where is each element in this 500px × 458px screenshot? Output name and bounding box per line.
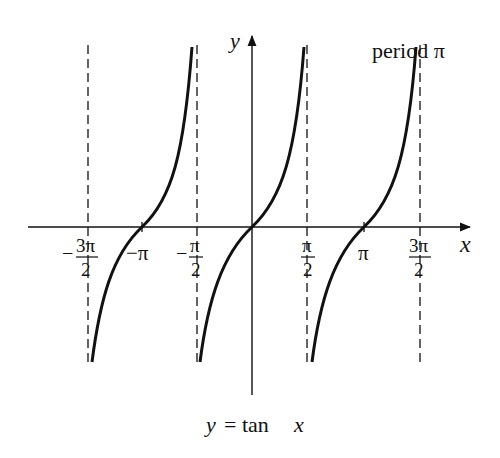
- tan-branch-1: [92, 47, 192, 362]
- tick-3pi-over-2-den: 2: [414, 259, 424, 280]
- x-axis-label: x: [459, 231, 471, 257]
- tick-minus-pi: −π: [126, 241, 149, 265]
- y-axis-label: y: [228, 28, 240, 53]
- tick-minus-3pi-over-2-den: 2: [81, 259, 91, 280]
- tick-minus-sign: −: [62, 242, 73, 264]
- asymptotes: [88, 45, 420, 362]
- tick-minus-3pi-over-2-num: 3π: [76, 235, 96, 256]
- caption-y: y: [204, 412, 216, 437]
- period-annotation: period π: [372, 38, 445, 63]
- tick-3pi-over-2-num: 3π: [409, 235, 429, 256]
- tan-graph: y x period π − 3π 2 −π − π 2 π 2 π 3π 2 …: [0, 0, 500, 458]
- tick-pi: π: [358, 241, 369, 265]
- caption-x: x: [293, 412, 304, 437]
- tan-curves: [92, 47, 416, 362]
- tick-labels: − 3π 2 −π − π 2 π 2 π 3π 2: [62, 235, 431, 280]
- caption-eq: = tan: [224, 412, 269, 437]
- tan-branch-3: [312, 47, 416, 362]
- tick-pi-over-2-den: 2: [303, 259, 313, 280]
- tick-minus-pi-over-2-den: 2: [191, 259, 201, 280]
- caption: y = tan x: [204, 412, 304, 437]
- tick-minus-sign: −: [176, 242, 187, 264]
- tick-pi-over-2-num: π: [302, 235, 312, 256]
- tick-minus-pi-over-2-num: π: [190, 235, 200, 256]
